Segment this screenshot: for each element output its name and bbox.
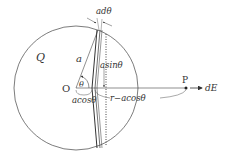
point-p [185, 87, 188, 90]
label-point: P [182, 75, 188, 85]
label-origin: O [62, 83, 70, 94]
label-angle: θ [79, 80, 84, 89]
label-radius: a [76, 53, 82, 64]
label-charge: Q [36, 51, 45, 64]
label-field: dE [205, 83, 218, 93]
arc-width-arrow-right [103, 22, 112, 26]
label-ring-radius: asinθ [100, 60, 123, 70]
ring-strip [92, 30, 102, 148]
sphere-ring-field-diagram: Q O a θ adθ asinθ acosθ r−acosθ P dE [0, 0, 229, 158]
arc-width-tick-1 [97, 18, 99, 30]
arc-width-arrow-left [87, 18, 96, 23]
arc-width-tick-2 [101, 19, 102, 31]
label-ring-offset: acosθ [72, 95, 96, 105]
label-distance: r−acosθ [110, 93, 146, 103]
label-arc-width: adθ [96, 6, 112, 16]
